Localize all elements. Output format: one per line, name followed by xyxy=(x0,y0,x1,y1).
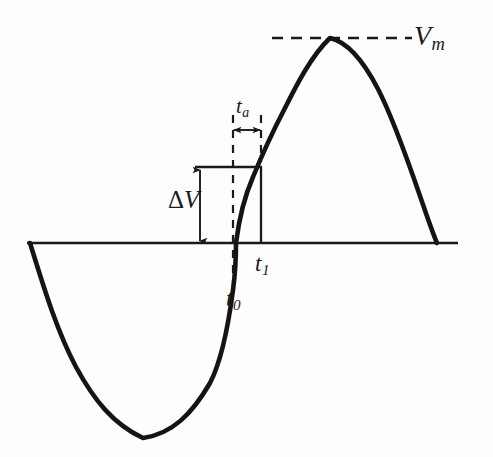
waveform-svg xyxy=(0,0,493,457)
peak-voltage-subscript: m xyxy=(432,34,445,54)
waveform-figure: Vm ta ΔV t1 t0 xyxy=(0,0,493,457)
time-zero-subscript: 0 xyxy=(233,296,241,313)
time-one-label: t1 xyxy=(255,252,269,277)
delta-symbol: Δ xyxy=(168,186,184,213)
aperture-time-subscript: a xyxy=(242,105,249,120)
time-zero-label: t0 xyxy=(226,287,240,312)
time-one-symbol: t xyxy=(255,251,261,276)
peak-voltage-label: Vm xyxy=(414,22,445,54)
time-zero-symbol: t xyxy=(226,286,232,311)
voltage-symbol: V xyxy=(184,186,199,213)
aperture-time-label: ta xyxy=(236,96,249,120)
peak-voltage-symbol: V xyxy=(414,20,431,51)
time-one-subscript: 1 xyxy=(262,261,270,278)
delta-voltage-label: ΔV xyxy=(168,187,199,212)
aperture-time-symbol: t xyxy=(236,94,242,118)
